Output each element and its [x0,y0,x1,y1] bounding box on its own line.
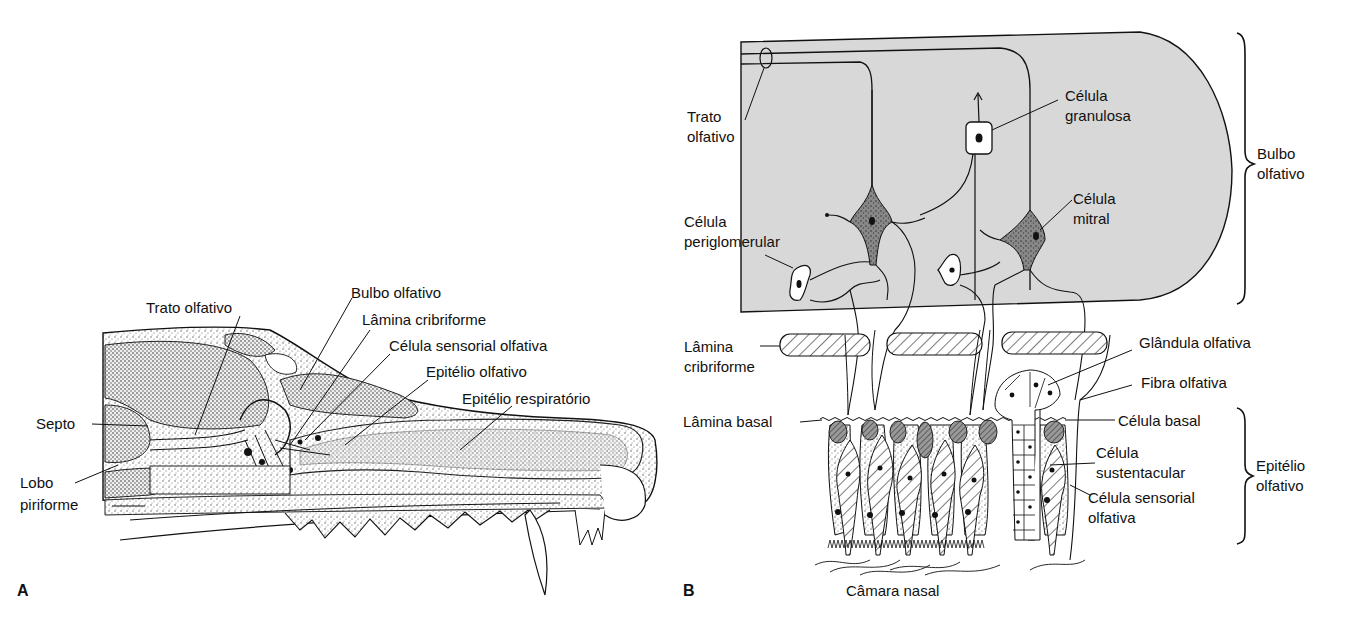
label-lamina-cribriforme-b-line1: Lâmina [684,338,733,355]
label-lamina-cribriforme-a: Lâmina cribriforme [362,311,486,328]
label-celula-periglomerular-line2: periglomerular [684,233,780,250]
panel-b-olfactory-epithelium [815,330,1110,575]
label-camara-nasal: Câmara nasal [846,582,939,599]
label-celula-sensorial-olfativa-b-line2: olfativa [1088,509,1136,526]
label-bulbo-olfativo-b-line1: Bulbo [1257,145,1295,162]
label-epitelio-olfativo-b-line2: olfativo [1256,477,1304,494]
panel-letter-a: A [17,582,29,600]
label-trato-olfativo-b-line2: olfativo [687,128,735,145]
label-bulbo-olfativo-b-line2: olfativo [1257,165,1305,182]
label-epitelio-respiratorio-a: Epitélio respiratório [462,390,590,407]
panel-a-skull-section [103,327,657,595]
label-lamina-basal: Lâmina basal [683,413,772,430]
label-celula-sustentacular-line1: Célula [1096,444,1139,461]
label-septo: Septo [36,415,75,432]
label-celula-mitral-line2: mitral [1073,210,1110,227]
label-trato-olfativo-b-line1: Trato [687,108,721,125]
label-glandula-olfativa: Glândula olfativa [1139,334,1251,351]
label-trato-olfativo-a: Trato olfativo [146,299,232,316]
label-celula-granulosa-line2: granulosa [1065,107,1131,124]
label-epitelio-olfativo-b-line1: Epitélio [1256,457,1305,474]
label-celula-mitral-line1: Célula [1073,190,1116,207]
panel-letter-b: B [683,582,695,600]
label-lobo-piriforme-line2: piriforme [20,496,78,513]
label-bulbo-olfativo-a: Bulbo olfativo [351,284,441,301]
label-fibra-olfativa: Fibra olfativa [1141,374,1227,391]
label-celula-sustentacular-line2: sustentacular [1096,464,1185,481]
label-celula-basal: Célula basal [1118,412,1201,429]
panel-b-cribriform-plate [780,332,1107,356]
label-celula-sensorial-olfativa-a: Célula sensorial olfativa [389,337,547,354]
label-celula-granulosa-line1: Célula [1065,87,1108,104]
panel-b-olfactory-bulb [741,32,1232,415]
panel-b-braces [1237,33,1254,544]
label-celula-periglomerular-line1: Célula [684,213,727,230]
label-lobo-piriforme-line1: Lobo [20,474,53,491]
label-lamina-cribriforme-b-line2: cribriforme [684,358,755,375]
label-celula-sensorial-olfativa-b-line1: Célula sensorial [1088,489,1195,506]
label-epitelio-olfativo-a: Epitélio olfativo [426,363,527,380]
